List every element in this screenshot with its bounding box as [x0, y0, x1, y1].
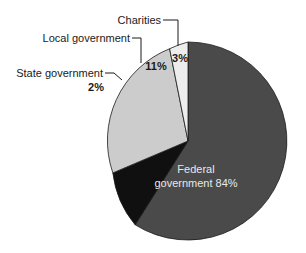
callout-label-charities: Charities [118, 14, 162, 26]
pie-value-local-government: 11% [145, 60, 167, 72]
pie-chart-svg: Charities Local government State governm… [0, 0, 306, 253]
callout-label-state-government: State government [16, 67, 103, 79]
leader-line-charities [163, 20, 178, 46]
callout-label-local-government: Local government [43, 32, 130, 44]
pie-label-federal-government-line1: Federal [177, 163, 214, 175]
pie-value-charities: 3% [172, 52, 188, 64]
pie-label-federal-government-line2: government 84% [154, 177, 237, 189]
leader-line-state-government [105, 73, 122, 80]
leader-line-local-government [132, 38, 141, 63]
pie-chart-figure: Charities Local government State governm… [0, 0, 306, 253]
pie-value-state-government: 2% [88, 81, 104, 93]
